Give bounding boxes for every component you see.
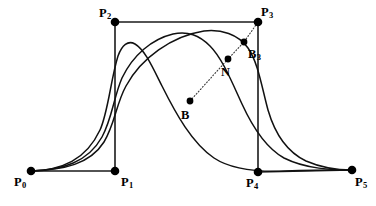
control-point-dot-p4 xyxy=(254,168,263,177)
label-p5-base: P xyxy=(355,175,363,189)
derived-point-dot-n xyxy=(225,56,232,63)
control-polygon-group xyxy=(31,22,352,172)
control-point-dot-p1 xyxy=(111,167,120,176)
label-p3-subscript: 3 xyxy=(269,10,273,20)
control-point-dot-p0 xyxy=(27,167,36,176)
label-p4-subscript: 4 xyxy=(254,181,258,191)
label-b3-base: B xyxy=(248,47,256,61)
label-p2-subscript: 2 xyxy=(107,11,111,21)
label-p4-base: P xyxy=(246,176,254,190)
label-p1-subscript: 1 xyxy=(129,180,133,190)
label-p2: P2 xyxy=(99,7,111,20)
label-b: B xyxy=(181,109,189,122)
label-p1-base: P xyxy=(121,175,129,189)
label-p0: P0 xyxy=(14,176,26,189)
label-b3: B3 xyxy=(248,48,261,61)
label-p3: P3 xyxy=(261,6,273,19)
dotted-ray-group xyxy=(190,22,258,101)
spline-curve-1 xyxy=(31,43,352,172)
control-point-dot-p2 xyxy=(111,18,120,27)
control-point-dot-p5 xyxy=(348,166,357,175)
control-point-dots-group xyxy=(27,18,357,177)
label-p2-base: P xyxy=(99,6,107,20)
label-b3-subscript: 3 xyxy=(257,52,261,62)
label-n: N xyxy=(221,66,230,79)
label-p3-base: P xyxy=(261,5,269,19)
label-p5-subscript: 5 xyxy=(363,180,367,190)
diagram-svg xyxy=(0,0,376,206)
label-p4: P4 xyxy=(246,177,258,190)
label-p1: P1 xyxy=(121,176,133,189)
label-n-base: N xyxy=(221,65,230,79)
label-p0-subscript: 0 xyxy=(22,180,26,190)
label-p5: P5 xyxy=(355,176,367,189)
label-p0-base: P xyxy=(14,175,22,189)
label-b-base: B xyxy=(181,108,189,122)
dotted-ray-b-to-p3 xyxy=(190,22,258,101)
derived-point-dot-b3 xyxy=(241,39,248,46)
figure-canvas: P0 P1 P2 P3 P4 P5 B N B3 xyxy=(0,0,376,206)
derived-point-dot-b xyxy=(187,98,194,105)
